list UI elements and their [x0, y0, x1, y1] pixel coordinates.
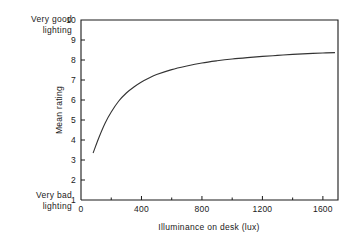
- x-tick-label: 1200: [253, 204, 273, 214]
- data-line-series: [93, 53, 335, 153]
- y-axis-ticks: 12345678910: [66, 15, 85, 205]
- y-tick-label: 8: [71, 55, 76, 65]
- y-tick-label: 6: [71, 95, 76, 105]
- line-chart: 12345678910 040080012001600 Illuminance …: [0, 0, 355, 239]
- y-tick-label: 1: [71, 195, 76, 205]
- chart-page: Very good lighting Very bad lighting 123…: [0, 0, 355, 239]
- y-tick-label: 3: [71, 155, 76, 165]
- x-axis-title: Illuminance on desk (lux): [158, 222, 260, 232]
- x-tick-label: 400: [134, 204, 149, 214]
- x-tick-label: 0: [79, 204, 84, 214]
- x-tick-label: 1600: [313, 204, 333, 214]
- y-tick-label: 9: [71, 35, 76, 45]
- y-tick-label: 4: [71, 135, 76, 145]
- x-tick-label: 800: [195, 204, 210, 214]
- y-tick-label: 7: [71, 75, 76, 85]
- plot-frame: [81, 20, 338, 200]
- y-tick-label: 5: [71, 115, 76, 125]
- y-axis-title: Mean rating: [54, 86, 64, 134]
- x-axis-ticks: 040080012001600: [79, 196, 333, 214]
- y-tick-label: 10: [66, 15, 76, 25]
- y-tick-label: 2: [71, 175, 76, 185]
